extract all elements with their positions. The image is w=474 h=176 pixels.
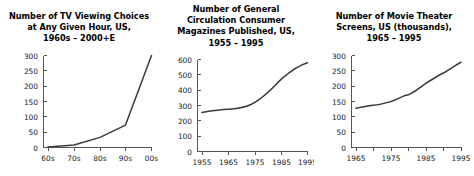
y-tick-label: 150	[24, 97, 38, 106]
plot-area-consumer-magazines: 600 500 400 300 200 100 0	[158, 49, 314, 169]
y-tick-label: 100	[332, 112, 346, 121]
y-tick-label: 300	[178, 101, 192, 110]
plot-area-tv-viewing-choices: 300 250 200 150 100 50 0	[0, 45, 158, 165]
y-tick-label: 150	[332, 97, 346, 106]
x-tick-label: 70s	[67, 154, 80, 163]
chart-panel-movie-theater-screens: Number of Movie Theater Screens, US (tho…	[314, 0, 474, 176]
x-tick-label: 1975	[246, 158, 265, 167]
title-line: Circulation Consumer	[162, 15, 310, 26]
y-tick-label: 0	[187, 147, 192, 156]
title-line: Screens, US (thousands),	[318, 22, 470, 33]
x-tick-label: 60s	[41, 154, 54, 163]
x-tick-label: 1995	[452, 154, 471, 163]
title-line: Magazines Published, US,	[162, 26, 310, 37]
data-line-consumer-magazines	[202, 63, 308, 113]
chart-panel-tv-viewing-choices: Number of TV Viewing Choices at Any Give…	[0, 0, 158, 176]
y-tick-label: 200	[332, 82, 346, 91]
y-tick-label: 50	[29, 128, 39, 137]
title-line: Number of Movie Theater	[318, 11, 470, 22]
data-line-movie-theater-screens	[356, 62, 461, 108]
title-line: 1955 – 1995	[162, 38, 310, 49]
y-tick-label: 200	[24, 82, 38, 91]
plot-area-movie-theater-screens: 300 250 200 150 100 50 0	[314, 45, 474, 165]
title-line: Number of General	[162, 4, 310, 15]
x-tick-label: 1955	[193, 158, 212, 167]
y-tick-label: 300	[332, 51, 346, 60]
chart-title-tv-viewing-choices: Number of TV Viewing Choices at Any Give…	[0, 11, 158, 45]
title-line: 1965 – 1995	[318, 33, 470, 44]
y-tick-label: 250	[332, 66, 346, 75]
y-tick-label: 200	[178, 117, 192, 126]
y-tick-label: 500	[178, 71, 192, 80]
data-line-tv-viewing-choices	[48, 55, 152, 146]
y-tick-label: 0	[33, 143, 38, 152]
title-line: at Any Given Hour, US,	[4, 22, 154, 33]
title-line: Number of TV Viewing Choices	[4, 11, 154, 22]
y-tick-label: 300	[24, 51, 38, 60]
x-tick-label: 1965	[347, 154, 366, 163]
x-tick-label: 1985	[417, 154, 436, 163]
x-tick-label: 90s	[119, 154, 132, 163]
title-line: 1960s – 2000+E	[4, 33, 154, 44]
y-tick-label: 0	[341, 143, 346, 152]
y-tick-label: 600	[178, 55, 192, 64]
chart-panel-consumer-magazines: Number of General Circulation Consumer M…	[158, 0, 314, 176]
x-tick-label: 00s	[145, 154, 158, 163]
chart-title-consumer-magazines: Number of General Circulation Consumer M…	[158, 4, 314, 49]
y-tick-label: 250	[24, 66, 38, 75]
x-tick-label: 1965	[219, 158, 238, 167]
x-tick-label: 80s	[93, 154, 106, 163]
y-tick-label: 100	[24, 112, 38, 121]
x-tick-label: 1995	[298, 158, 314, 167]
y-tick-label: 50	[337, 128, 347, 137]
chart-title-movie-theater-screens: Number of Movie Theater Screens, US (tho…	[314, 11, 474, 45]
y-tick-label: 100	[178, 132, 192, 141]
y-tick-label: 400	[178, 86, 192, 95]
x-tick-label: 1985	[272, 158, 291, 167]
x-tick-label: 1975	[382, 154, 401, 163]
three-chart-figure: Number of TV Viewing Choices at Any Give…	[0, 0, 474, 176]
